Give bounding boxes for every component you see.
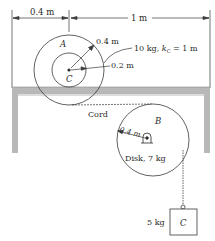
arrowhead-icon	[13, 17, 19, 20]
mechanics-diagram: 0.4 m 1 m A C 0.4 m 0.2 m 10 kg, kC = 1 …	[0, 0, 215, 241]
disk-b	[117, 104, 189, 176]
hook-icon	[181, 205, 185, 209]
right-span-label: 1 m	[131, 13, 147, 23]
support-inner-shadow	[18, 94, 204, 96]
wheel-a-outer-radius-arrow	[71, 45, 94, 68]
arrowhead-icon	[203, 17, 209, 20]
arrowhead-icon	[71, 17, 77, 20]
outer-radius-label: 0.4 m	[96, 37, 119, 46]
wheel-a-label: A	[59, 39, 66, 49]
cord-label: Cord	[88, 110, 108, 119]
disk-b-label: B	[154, 116, 161, 126]
wheel-a-center-label: C	[66, 74, 73, 84]
disk-b-description: Disk, 7 kg	[125, 154, 166, 163]
mass-gyration-label: 10 kg, kC = 1 m	[134, 44, 198, 54]
block-c-label: C	[180, 218, 187, 228]
cord-horizontal	[72, 104, 152, 105]
wheel-a-center-dot	[67, 68, 70, 71]
support-left-post	[12, 87, 18, 153]
left-span-label: 0.4 m	[30, 7, 54, 17]
block-c-mass-label: 5 kg	[147, 218, 165, 227]
support-top-bar	[12, 87, 210, 94]
support-right-post	[204, 87, 210, 153]
arrowhead-icon	[62, 17, 68, 20]
inner-radius-label: 0.2 m	[111, 61, 134, 70]
